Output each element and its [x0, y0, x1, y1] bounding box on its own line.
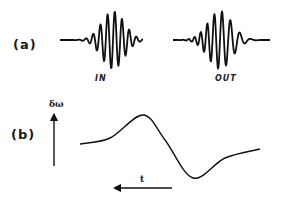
diagram-canvas [0, 0, 284, 201]
panel-a-label: (a) [13, 37, 37, 52]
panel-b-label: (b) [11, 127, 35, 142]
x-axis-label: t [140, 174, 144, 184]
input-pulse-waveform [60, 12, 143, 68]
in-label: IN [95, 74, 107, 83]
out-label: OUT [215, 74, 237, 83]
frequency-shift-curve [80, 115, 260, 178]
y-axis-label: δω [49, 99, 64, 109]
output-pulse-waveform [173, 11, 270, 68]
